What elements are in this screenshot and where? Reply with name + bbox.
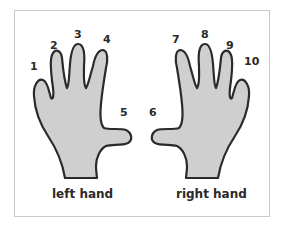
finger-number-10: 10 (244, 55, 260, 68)
finger-number-8: 8 (201, 28, 209, 41)
finger-number-6: 6 (149, 106, 157, 119)
finger-number-4: 4 (103, 33, 111, 46)
left-hand-shape (34, 44, 131, 178)
finger-number-1: 1 (30, 60, 38, 73)
finger-number-5: 5 (120, 106, 128, 119)
finger-number-7: 7 (172, 33, 180, 46)
finger-number-3: 3 (74, 28, 82, 41)
finger-number-9: 9 (226, 39, 234, 52)
finger-number-2: 2 (50, 39, 58, 52)
right-hand-label: right hand (176, 187, 247, 201)
left-hand-label: left hand (52, 187, 113, 201)
right-hand-shape (152, 44, 249, 178)
